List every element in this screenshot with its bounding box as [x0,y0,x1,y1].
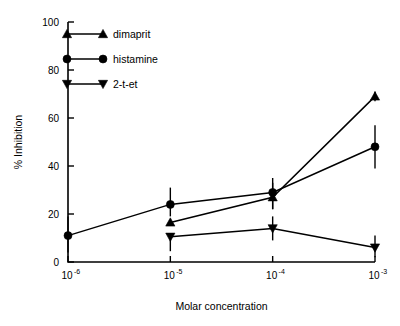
data-point-marker [370,92,379,100]
legend-label: 2-t-et [113,78,138,90]
y-tick-label: 20 [48,209,60,220]
axes-group: 02040608010010-610-510-410-3 [42,17,387,282]
chart-figure: 02040608010010-610-510-410-3Molar concen… [0,0,400,326]
data-point-marker [371,143,379,151]
legend-label: histamine [113,53,158,65]
data-point-marker [370,244,379,252]
data-point-marker [269,188,277,196]
x-tick-label-base: 10 [368,270,380,281]
data-point-marker [166,200,174,208]
x-tick-label-base: 10 [164,270,176,281]
legend-entry-histamine: histamine [63,53,158,65]
circle-icon [99,55,107,63]
x-tick-label-exponent: -6 [74,268,80,275]
y-tick-label: 60 [48,113,60,124]
x-tick-label-base: 10 [266,270,278,281]
x-tick-label-exponent: -3 [381,268,387,275]
legend-entry-dimaprit: dimaprit [62,28,150,40]
y-tick-label: 40 [48,161,60,172]
line-chart: 02040608010010-610-510-410-3Molar concen… [0,0,400,326]
y-axis-title: % Inhibition [12,115,24,169]
y-tick-label: 80 [48,65,60,76]
x-tick-label-base: 10 [61,270,73,281]
series-line-histamine [68,147,375,236]
x-tick-label: 10-3 [368,268,387,281]
series-2-t-et [166,216,380,257]
x-tick-label: 10-6 [61,268,80,281]
x-tick-label: 10-5 [164,268,183,281]
legend: dimaprithistamine2-t-et [62,28,158,90]
x-tick-label: 10-4 [266,268,285,281]
data-point-marker [64,232,72,240]
y-tick-label: 0 [53,257,59,268]
legend-label: dimaprit [113,28,150,40]
x-axis-title: Molar concentration [175,300,267,312]
x-tick-label-exponent: -5 [176,268,182,275]
circle-icon [63,55,71,63]
x-tick-label-exponent: -4 [279,268,285,275]
y-tick-label: 100 [42,17,59,28]
legend-entry-2-t-et: 2-t-et [62,78,137,90]
